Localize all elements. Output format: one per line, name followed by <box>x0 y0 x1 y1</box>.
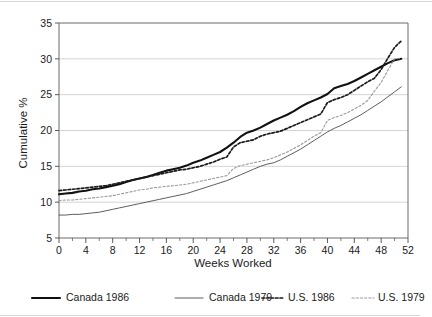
y-axis-ticks <box>55 23 59 238</box>
chart-figure: 5101520253035 0481216202428323640444852 … <box>0 0 432 317</box>
x-tick-label: 40 <box>322 244 334 256</box>
x-tick-label: 32 <box>268 244 280 256</box>
x-axis-tick-labels: 0481216202428323640444852 <box>56 244 414 256</box>
y-tick-label: 30 <box>40 53 52 65</box>
x-tick-label: 36 <box>295 244 307 256</box>
legend-label-2: Canada 1979 <box>209 291 272 303</box>
y-tick-label: 25 <box>40 88 52 100</box>
legend-label-3: U.S. 1986 <box>288 291 335 303</box>
x-tick-label: 48 <box>375 244 387 256</box>
x-tick-label: 28 <box>241 244 253 256</box>
y-tick-label: 20 <box>40 124 52 136</box>
x-axis-title: Weeks Worked <box>194 257 272 269</box>
chart-legend: Canada 1986Canada 1979U.S. 1986U.S. 1979 <box>32 291 425 303</box>
x-tick-label: 8 <box>110 244 116 256</box>
x-tick-label: 44 <box>348 244 360 256</box>
series-line-canada-1986 <box>59 59 401 194</box>
x-tick-label: 52 <box>402 244 414 256</box>
y-axis-title: Cumulative % <box>17 98 29 169</box>
x-axis-ticks <box>59 238 408 243</box>
x-tick-label: 0 <box>56 244 62 256</box>
x-tick-label: 4 <box>83 244 89 256</box>
legend-label-1: Canada 1986 <box>66 291 129 303</box>
x-tick-label: 20 <box>187 244 199 256</box>
series-line-u-s-1986 <box>59 41 401 191</box>
y-tick-label: 5 <box>46 232 52 244</box>
y-axis-tick-labels: 5101520253035 <box>40 17 52 244</box>
line-chart: 5101520253035 0481216202428323640444852 … <box>0 0 432 317</box>
y-tick-label: 10 <box>40 196 52 208</box>
y-tick-label: 15 <box>40 160 52 172</box>
legend-label-4: U.S. 1979 <box>378 291 425 303</box>
page-edge-rule-top <box>0 1 432 2</box>
page-edge-rule-bottom <box>0 315 420 316</box>
x-tick-label: 16 <box>161 244 173 256</box>
data-series-group <box>59 41 401 215</box>
y-tick-label: 35 <box>40 17 52 29</box>
x-tick-label: 24 <box>214 244 226 256</box>
x-tick-label: 12 <box>134 244 146 256</box>
